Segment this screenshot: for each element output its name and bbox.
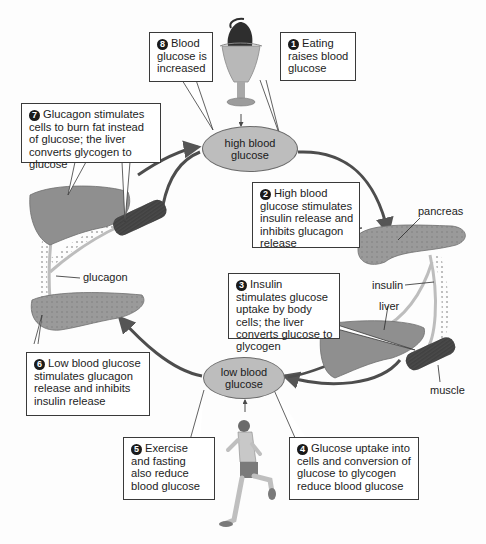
insulin-label: insulin (372, 279, 403, 291)
step-4-callout: 4Glucose uptake into cells and conversio… (289, 437, 419, 500)
step-number-badge: 7 (29, 110, 40, 121)
step-number-badge: 3 (236, 280, 247, 291)
left-liver-illustration (30, 186, 130, 245)
step-number-badge: 1 (288, 39, 299, 50)
pancreas-label: pancreas (418, 205, 463, 217)
step-text: Low blood glucose stimulates glucagon re… (34, 357, 141, 407)
low-blood-glucose-node: low blood glucose (203, 357, 285, 399)
step-5-callout: 5Exercise and fasting also reduce blood … (123, 437, 215, 500)
step-text: High blood glucose stimulates insulin re… (260, 187, 353, 249)
step-2-callout: 2High blood glucose stimulates insulin r… (252, 182, 360, 248)
step-number-badge: 6 (34, 359, 45, 370)
step-6-callout: 6Low blood glucose stimulates glucagon r… (26, 352, 150, 416)
high-blood-glucose-label: high blood glucose (218, 137, 282, 162)
muscle-label: muscle (430, 384, 465, 396)
step-3-callout: 3Insulin stimulates glucose uptake by bo… (228, 273, 340, 339)
step-text: Glucose uptake into cells and conversion… (297, 442, 411, 492)
step-number-badge: 8 (157, 39, 168, 50)
step-8-callout: 8Blood glucose is increased (149, 32, 213, 82)
glucagon-label: glucagon (83, 271, 128, 283)
step-7-callout: 7Glucagon stimulates cells to burn fat i… (21, 103, 161, 163)
step-1-callout: 1Eating raises blood glucose (280, 32, 356, 81)
high-blood-glucose-node: high blood glucose (202, 126, 298, 172)
sundae-illustration (220, 19, 262, 106)
low-blood-glucose-label: low blood glucose (214, 366, 274, 391)
step-number-badge: 5 (131, 444, 142, 455)
diagram-canvas: high blood glucose low blood glucose 1Ea… (0, 0, 486, 544)
right-pancreas-illustration (358, 225, 465, 264)
liver-label: liver (379, 300, 399, 312)
step-text: Glucagon stimulates cells to burn fat in… (29, 108, 144, 170)
step-number-badge: 2 (260, 189, 271, 200)
step-number-badge: 4 (297, 444, 308, 455)
runner-illustration (219, 420, 276, 527)
